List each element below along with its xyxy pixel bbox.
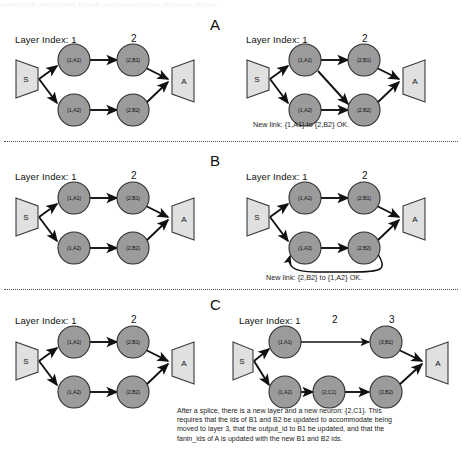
neuron-label: {1,A1} — [298, 57, 312, 63]
neuron-label: {3,B2} — [379, 389, 393, 395]
edge-s-to-a1 — [270, 204, 288, 217]
neuron-node: {1,A1} — [289, 182, 321, 214]
neuron-label: {1,A1} — [278, 339, 292, 345]
edge-s-to-a2 — [39, 361, 57, 385]
edge-s-to-a2 — [254, 361, 269, 385]
neuron-node: {1,A2} — [269, 376, 301, 408]
neuron-node: {1,A2} — [58, 376, 90, 408]
neuron-node: {1,A1} — [289, 44, 321, 76]
edge-new-a1-to-b2 — [318, 71, 348, 104]
edge-s-to-a1 — [39, 204, 57, 217]
section-a: A Layer Index: 1 2 S — [0, 16, 462, 138]
edge-s-to-a1 — [39, 348, 57, 361]
edge-b2-to-a — [399, 364, 422, 385]
section-c-right-graph: S {1,A1} {1,A2} — [231, 296, 462, 408]
source-node-label: S — [254, 213, 259, 222]
section-a-left-panel: Layer Index: 1 2 S — [0, 16, 231, 138]
sink-node-a: A — [172, 198, 194, 240]
sink-node-label: A — [412, 215, 418, 224]
neuron-node: {2,B2} — [117, 376, 149, 408]
neuron-label: {2,B1} — [126, 57, 140, 63]
source-node-s: S — [247, 60, 269, 98]
source-node-s: S — [16, 198, 38, 236]
neuron-node: {2,B2} — [117, 94, 149, 126]
sink-node-label: A — [412, 77, 418, 86]
edge-s-to-a1 — [39, 66, 57, 79]
caption-line: After a splice, there is a new layer and… — [177, 406, 462, 415]
neuron-node: {2,B1} — [117, 182, 149, 214]
neuron-label: {1,A2} — [67, 245, 81, 251]
neuron-node: {1,A2} — [289, 232, 321, 264]
sink-node-a: A — [426, 342, 448, 384]
section-a-right-panel: Layer Index: 1 2 S {1,A1} — [231, 16, 462, 138]
neuron-node-new-spliced: {2,C1} — [313, 376, 345, 408]
neuron-label: {2,B1} — [357, 57, 371, 63]
caption-line: moved to layer 3, that the output_id to … — [177, 424, 462, 433]
sink-node-label: A — [181, 215, 187, 224]
edge-b2-to-a — [377, 82, 399, 103]
neuron-label: {1,A1} — [67, 339, 81, 345]
edge-b2-to-a — [146, 82, 168, 103]
neuron-label: {2,C1} — [322, 389, 337, 395]
neuron-node: {2,B1} — [348, 182, 380, 214]
neuron-node: {1,A1} — [58, 326, 90, 358]
edge-b1-to-a — [377, 68, 399, 79]
neuron-label: {2,B1} — [126, 195, 140, 201]
neuron-node: {1,A1} — [269, 326, 301, 358]
neuron-label: {1,A2} — [67, 107, 81, 113]
neuron-label: {1,A2} — [298, 245, 312, 251]
section-divider-2 — [4, 289, 458, 290]
neuron-node: {3,B2} — [370, 376, 402, 408]
sink-node-a: A — [403, 198, 425, 240]
neuron-label: {1,A1} — [298, 195, 312, 201]
edge-s-to-a2 — [270, 217, 288, 241]
edge-s-to-a2 — [270, 79, 288, 103]
neuron-node: {1,A1} — [58, 44, 90, 76]
source-node-s: S — [247, 198, 269, 236]
source-node-s: S — [233, 342, 253, 380]
section-b-caption: New link: {2,B2} to {1,A2} OK. — [266, 273, 362, 282]
sink-node-a: A — [172, 60, 194, 102]
section-b-right-graph: S {1,A1} {1,A2} — [231, 152, 462, 282]
sink-node-a: A — [403, 60, 425, 102]
source-node-label: S — [239, 357, 244, 366]
source-node-label: S — [254, 75, 259, 84]
sink-node-label: A — [435, 359, 441, 368]
neuron-node: {1,A2} — [58, 94, 90, 126]
caption-line: fanin_ids of A is updated with the new B… — [177, 434, 462, 443]
neuron-node: {2,B1} — [117, 44, 149, 76]
neuron-node: {2,B2} — [348, 94, 380, 126]
neuron-label: {2,B2} — [126, 107, 140, 113]
neuron-node: {2,B1} — [117, 326, 149, 358]
neuron-label: {1,A1} — [67, 195, 81, 201]
section-divider-1 — [4, 141, 458, 142]
edge-s-to-a2 — [39, 79, 57, 103]
edge-s-to-a1 — [254, 349, 269, 361]
neuron-label: {2,B1} — [126, 339, 140, 345]
neuron-label: {1,A2} — [298, 107, 312, 113]
neuron-label: {2,B2} — [357, 107, 371, 113]
edge-b2-to-a — [377, 220, 399, 241]
edge-b1-to-a — [146, 350, 168, 361]
source-node-label: S — [23, 213, 28, 222]
edge-s-to-a1 — [270, 66, 288, 79]
neuron-label: {1,A2} — [278, 389, 292, 395]
section-c-caption: After a splice, there is a new layer and… — [177, 406, 462, 443]
sink-node-label: A — [181, 77, 187, 86]
neuron-node: {3,B1} — [370, 326, 402, 358]
edge-b2-to-a — [146, 364, 168, 385]
neuron-node: {1,A2} — [58, 232, 90, 264]
neuron-node: {2,B2} — [348, 232, 380, 264]
section-b: B Layer Index: 1 2 S {1,A1} — [0, 152, 462, 282]
sink-node-a: A — [172, 342, 194, 384]
neuron-label: {2,B2} — [126, 389, 140, 395]
caption-line: requires that the ids of B1 and B2 be up… — [177, 415, 462, 424]
neuron-label: {1,A1} — [67, 57, 81, 63]
section-b-right-panel: Layer Index: 1 2 S {1,A1} — [231, 152, 462, 282]
edge-b1-to-a — [377, 206, 399, 217]
source-node-s: S — [16, 60, 38, 98]
edge-b1-to-a — [399, 350, 422, 361]
neuron-label: {2,B2} — [126, 245, 140, 251]
neuron-label: {1,A2} — [67, 389, 81, 395]
edge-b1-to-a — [146, 206, 168, 217]
